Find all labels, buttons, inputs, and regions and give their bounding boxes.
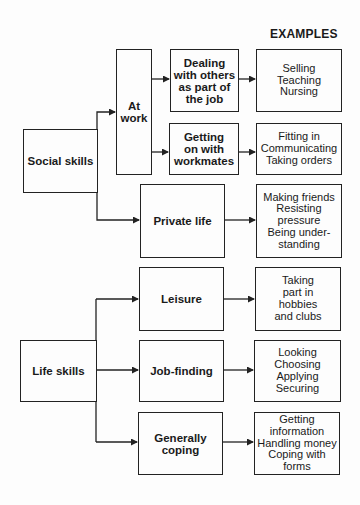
generally-coping-box: Generallycoping xyxy=(138,412,223,475)
social-skills-label: Social skills xyxy=(28,155,94,167)
example-line: standing xyxy=(263,239,335,251)
label-line: Leisure xyxy=(161,293,202,305)
examples-dealing-box: SellingTeachingNursing xyxy=(256,49,342,112)
examples-leisure-box: Takingpart inhobbiesand clubs xyxy=(255,267,341,331)
leisure-box: Leisure xyxy=(139,267,224,331)
examples-job-finding-box: LookingChoosingApplyingSecuring xyxy=(254,340,341,402)
label-line: the job xyxy=(174,93,235,105)
social-skills-box: Social skills xyxy=(23,129,98,193)
label-line: Private life xyxy=(153,215,211,227)
label-line: Dealing xyxy=(174,57,235,69)
example-line: Taking orders xyxy=(261,155,337,167)
example-line: information xyxy=(257,426,337,438)
label-line: as part of xyxy=(174,81,235,93)
label-line: workmates xyxy=(174,155,234,167)
label-line: with others xyxy=(174,69,235,81)
life-skills-label: Life skills xyxy=(32,365,84,377)
examples-coping-box: GettinginformationHandling moneyCoping w… xyxy=(254,412,340,475)
label-line: At xyxy=(121,100,148,112)
example-line: and clubs xyxy=(274,311,321,323)
examples-getting-on-box: Fitting inCommunicatingTaking orders xyxy=(256,123,342,175)
examples-private-life-box: Making friendsResistingpressureBeing und… xyxy=(256,184,342,258)
at-work-box: Atwork xyxy=(116,49,152,175)
example-line: Selling xyxy=(277,63,321,75)
label-line: on with xyxy=(174,143,234,155)
dealing-with-others-box: Dealingwith othersas part ofthe job xyxy=(170,49,239,112)
label-line: Generally xyxy=(154,432,206,444)
job-finding-box: Job-finding xyxy=(139,340,224,402)
life-skills-box: Life skills xyxy=(20,340,97,402)
label-line: Getting xyxy=(174,131,234,143)
example-line: Being under- xyxy=(263,227,335,239)
example-line: forms xyxy=(257,461,337,473)
label-line: work xyxy=(121,112,148,124)
example-line: Nursing xyxy=(277,86,321,98)
examples-heading: EXAMPLES xyxy=(270,27,338,41)
example-line: Securing xyxy=(274,383,320,395)
getting-on-with-workmates-box: Gettingon withworkmates xyxy=(169,123,239,175)
label-line: coping xyxy=(154,444,206,456)
private-life-box: Private life xyxy=(140,184,225,258)
label-line: Job-finding xyxy=(150,365,213,377)
